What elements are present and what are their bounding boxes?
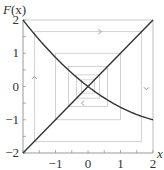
direction-arrows — [32, 29, 149, 105]
arrow-left-icon — [82, 101, 85, 106]
axis-labels: F(x) x 210−1−2−1012 — [2, 2, 163, 170]
y-tick-label: 1 — [13, 45, 20, 60]
x-axis-label: x — [156, 146, 163, 161]
x-tick-label: 2 — [150, 156, 157, 170]
y-tick-label: 2 — [13, 12, 20, 27]
y-tick-label: 0 — [13, 79, 20, 94]
y-tick-label: −2 — [5, 145, 19, 160]
cobweb-chart: F(x) x 210−1−2−1012 — [0, 0, 164, 170]
curves — [23, 20, 153, 153]
y-tick-label: −1 — [5, 112, 19, 127]
x-tick-label: 0 — [85, 156, 92, 170]
x-tick-label: −1 — [49, 156, 63, 170]
arrow-down-icon — [144, 87, 149, 90]
f-curve — [23, 20, 153, 120]
x-tick-label: 1 — [117, 156, 124, 170]
